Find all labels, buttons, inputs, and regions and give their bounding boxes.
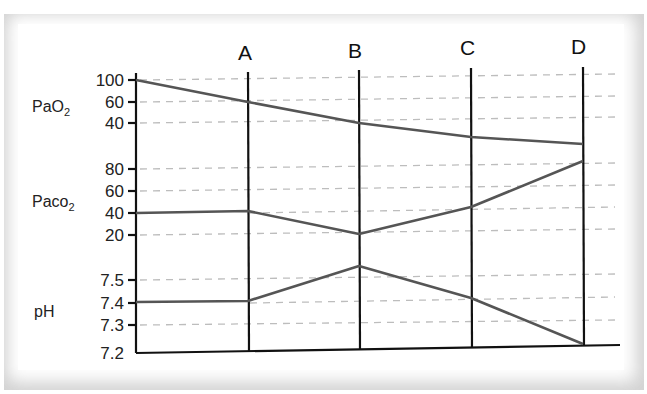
tick-paco2-80: 80 xyxy=(105,160,124,179)
column-label-a: A xyxy=(238,41,252,64)
tick-paco2-20: 20 xyxy=(105,226,124,245)
tick-paco2-40: 40 xyxy=(105,204,124,223)
column-label-c: C xyxy=(460,36,475,59)
column-line-d xyxy=(583,67,584,346)
panel-labels: PaO2 Paco2 pH xyxy=(32,98,75,320)
label-ph: pH xyxy=(34,303,54,320)
tick-ph-7.4: 7.4 xyxy=(100,294,124,313)
tick-pao2-60: 60 xyxy=(105,93,124,112)
tick-pao2-40: 40 xyxy=(105,114,124,133)
tick-ph-7.2: 7.2 xyxy=(100,344,124,363)
label-pao2: PaO2 xyxy=(32,98,70,118)
column-line-b xyxy=(359,70,360,350)
label-paco2: Paco2 xyxy=(32,193,75,213)
y-ticks xyxy=(128,80,136,325)
tick-labels: 100 60 40 80 60 40 20 7.5 7.4 7.3 7.2 xyxy=(96,71,124,363)
tick-paco2-60: 60 xyxy=(105,182,124,201)
blood-gas-chart: A B C D 100 60 40 80 60 40 20 7.5 7.4 7.… xyxy=(0,0,647,394)
tick-pao2-100: 100 xyxy=(96,71,124,90)
tick-ph-7.5: 7.5 xyxy=(100,271,124,290)
column-label-b: B xyxy=(348,39,362,62)
column-lines xyxy=(248,67,584,351)
column-label-d: D xyxy=(571,35,586,58)
gridlines xyxy=(140,74,615,325)
tick-ph-7.3: 7.3 xyxy=(100,316,124,335)
column-labels: A B C D xyxy=(238,35,586,64)
